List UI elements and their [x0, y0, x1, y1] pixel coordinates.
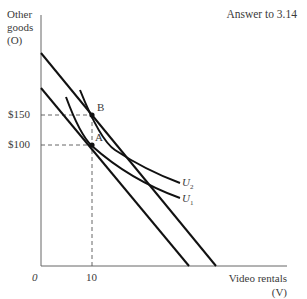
u2-subscript: 2 [190, 183, 194, 191]
point-a-marker [89, 142, 94, 147]
point-b-label: B [97, 101, 104, 114]
origin-label: 0 [32, 271, 38, 284]
y-axis-label-line3: (O) [7, 34, 33, 47]
x-axis-label-line2: (V) [229, 285, 287, 299]
u1-subscript: 1 [190, 199, 194, 207]
x-axis-label: Video rentals (V) [229, 271, 287, 299]
u1-label: U1 [182, 192, 193, 210]
point-a-label: A [95, 131, 103, 144]
chart-title: Answer to 3.14 [226, 8, 297, 21]
y-axis-label-line1: Other [7, 8, 33, 21]
x-axis-label-line1: Video rentals [229, 271, 287, 285]
x-tick-10: 10 [86, 271, 97, 284]
indifference-curve-u1 [66, 97, 180, 198]
y-axis-label: Other goods (O) [7, 8, 33, 47]
u2-letter: U [182, 176, 190, 188]
y-tick-100: $100 [8, 138, 30, 151]
y-tick-150: $150 [8, 108, 30, 121]
chart-plot [0, 0, 307, 299]
u1-letter: U [182, 192, 190, 204]
point-b-marker [89, 112, 94, 117]
y-axis-label-line2: goods [7, 21, 33, 34]
